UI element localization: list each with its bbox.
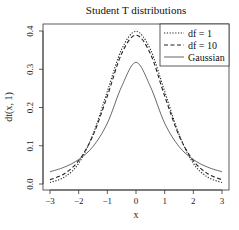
x-tick-label: 2 [191,196,196,206]
x-tick-label: −3 [45,196,55,206]
x-tick-label: −1 [103,196,113,206]
legend-label: df = 1 [188,28,212,39]
series-line-2 [50,62,222,171]
x-tick-label: −2 [74,196,84,206]
x-tick-label: 1 [162,196,167,206]
legend-label: Gaussian [188,52,225,63]
x-axis: −3−2−10123 [45,190,225,206]
y-tick-label: 0.1 [25,140,35,151]
y-axis-label: dt(x, 1) [3,92,15,121]
legend-label: df = 10 [188,40,217,51]
legend: df = 1df = 10Gaussian [160,24,229,66]
chart-title: Student T distributions [86,4,186,16]
chart: Student T distributions −3−2−10123 0.00.… [0,0,239,230]
y-tick-label: 0.3 [25,63,35,75]
x-axis-label: x [134,209,139,220]
x-tick-label: 3 [220,196,225,206]
y-tick-label: 0.0 [25,178,35,190]
y-tick-label: 0.4 [25,25,35,37]
y-tick-label: 0.2 [25,102,35,113]
x-tick-label: 0 [134,196,139,206]
y-axis: 0.00.10.20.30.4 [25,25,43,190]
